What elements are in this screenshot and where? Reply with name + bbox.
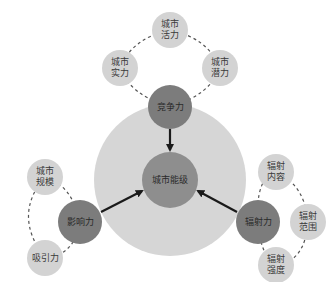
diagram-canvas	[0, 0, 335, 282]
radiation-content-label: 辐射 内容	[258, 160, 294, 184]
competitiveness-label: 竞争力	[148, 97, 192, 117]
radiation-range-label: 辐射 范围	[290, 210, 326, 234]
radiation-label: 辐射力	[236, 212, 280, 232]
city-scale-label: 城市 规模	[27, 165, 63, 189]
city-potential-label: 城市 潜力	[202, 56, 238, 80]
influence-label: 影响力	[58, 212, 102, 232]
city-vitality-label: 城市 活力	[152, 18, 188, 42]
attraction-label: 吸引力	[25, 248, 65, 268]
core-label: 城市能级	[140, 170, 200, 190]
city-strength-label: 城市 实力	[102, 56, 138, 80]
radiation-intensity-label: 辐射 强度	[258, 253, 294, 277]
